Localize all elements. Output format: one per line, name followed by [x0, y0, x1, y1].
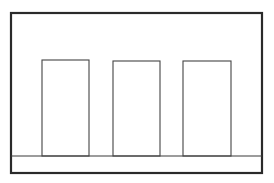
rectangles-group [42, 60, 231, 156]
inner-rectangle-1 [42, 60, 89, 156]
diagram-canvas [0, 0, 274, 183]
inner-rectangle-3 [183, 61, 231, 156]
outer-frame [11, 13, 262, 173]
inner-rectangle-2 [113, 61, 160, 156]
